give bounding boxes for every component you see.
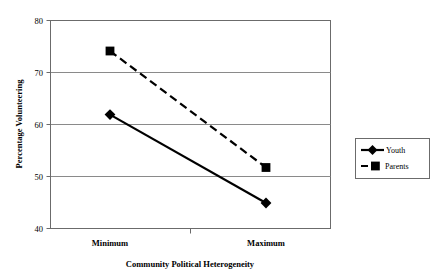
x-axis: Minimum Maximum (51, 229, 331, 249)
line-chart: 80 70 60 50 40 Minimum Maximum Community… (0, 0, 434, 274)
x-axis-title: Community Political Heterogeneity (126, 259, 255, 269)
x-category-label-maximum: Maximum (247, 238, 285, 248)
legend: Youth Parents (356, 139, 430, 179)
y-tick-label-70: 70 (35, 68, 44, 78)
x-category-label-minimum: Minimum (92, 238, 128, 248)
data-point-parents-maximum (262, 163, 271, 172)
data-point-youth-minimum (105, 109, 116, 120)
y-axis: 80 70 60 50 40 (35, 16, 51, 234)
legend-label-youth: Youth (386, 146, 405, 155)
data-point-parents-minimum (106, 47, 115, 56)
y-tick-label-80: 80 (35, 16, 44, 26)
series-parents (106, 47, 271, 172)
legend-label-parents: Parents (385, 162, 409, 171)
legend-box (356, 139, 430, 179)
y-axis-title: Percentage Volunteering (14, 79, 24, 169)
series-parents-line (110, 51, 266, 168)
series-youth-line (110, 115, 266, 203)
y-tick-label-60: 60 (35, 120, 44, 130)
y-tick-label-40: 40 (35, 224, 44, 234)
y-tick-label-50: 50 (35, 172, 44, 182)
chart-container: 80 70 60 50 40 Minimum Maximum Community… (0, 0, 434, 274)
square-marker-icon (371, 162, 380, 171)
data-point-youth-maximum (261, 198, 272, 209)
